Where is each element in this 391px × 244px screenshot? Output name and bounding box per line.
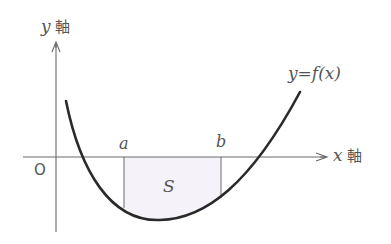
area-label-s: S <box>163 178 175 195</box>
origin-label: O <box>34 163 46 178</box>
x-axis-label: x 軸 <box>333 147 362 164</box>
y-axis-label: y 軸 <box>41 18 70 35</box>
b-label: b <box>216 134 226 150</box>
x-axis-word: 軸 <box>347 147 362 165</box>
x-axis-var: x <box>333 145 343 165</box>
curve-label: y=f(x) <box>288 65 341 82</box>
function-graph <box>0 0 391 244</box>
y-axis-word: 軸 <box>55 18 70 36</box>
y-axis-var: y <box>41 16 51 36</box>
a-label: a <box>119 136 129 152</box>
